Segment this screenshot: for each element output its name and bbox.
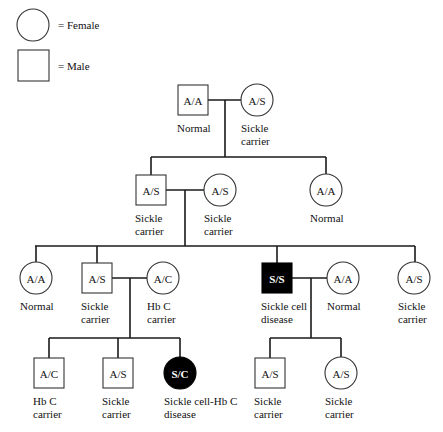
phenotype-label: carrier xyxy=(325,408,354,420)
phenotype-label: Normal xyxy=(327,300,361,312)
genotype-label: S/S xyxy=(269,273,284,285)
phenotype-label: Sickle xyxy=(398,300,426,312)
female-legend-icon xyxy=(17,9,49,41)
individual-III-6: A/SSicklecarrier xyxy=(398,262,430,325)
female-legend-label: = Female xyxy=(58,19,99,31)
phenotype-label: disease xyxy=(261,313,293,325)
phenotype-label: carrier xyxy=(204,225,233,237)
genotype-label: A/A xyxy=(334,273,353,285)
phenotype-label: carrier xyxy=(398,313,427,325)
genotype-label: A/S xyxy=(109,368,126,380)
phenotype-label: Sickle xyxy=(241,122,269,134)
individual-III-3: A/CHb Ccarrier xyxy=(147,262,179,325)
individual-I-2: A/SSicklecarrier xyxy=(241,84,273,147)
individual-IV-4: A/SSicklecarrier xyxy=(254,358,285,420)
legend: = Female = Male xyxy=(17,9,99,81)
genotype-label: A/S xyxy=(211,185,228,197)
individual-I-1: A/ANormal xyxy=(177,85,211,134)
phenotype-label: Sickle xyxy=(254,395,282,407)
genotype-label: A/S xyxy=(88,273,105,285)
phenotype-label: carrier xyxy=(147,313,176,325)
genotype-label: A/A xyxy=(184,95,203,107)
individual-III-4: S/SSickle celldisease xyxy=(261,263,307,325)
genotype-label: A/S xyxy=(142,185,159,197)
phenotype-label: Normal xyxy=(20,300,54,312)
genotype-label: A/S xyxy=(405,273,422,285)
individual-IV-3: S/CSickle cell-Hb Cdisease xyxy=(164,357,237,420)
genotype-label: A/S xyxy=(261,368,278,380)
male-legend-icon xyxy=(18,50,49,81)
genotype-label: A/A xyxy=(27,273,46,285)
pedigree-diagram: = Female = Male A/ANormalA/SSicklecarrie… xyxy=(0,0,443,432)
genotype-label: A/S xyxy=(332,368,349,380)
individual-IV-2: A/SSicklecarrier xyxy=(102,358,133,420)
genotype-label: A/S xyxy=(248,95,265,107)
genotype-label: S/C xyxy=(171,368,188,380)
phenotype-label: Sickle xyxy=(325,395,353,407)
individual-III-5: A/ANormal xyxy=(327,262,361,312)
phenotype-label: Hb C xyxy=(147,300,171,312)
male-legend-label: = Male xyxy=(58,60,90,72)
individual-IV-1: A/CHb Ccarrier xyxy=(33,358,64,420)
phenotype-label: Sickle cell xyxy=(261,300,307,312)
phenotype-label: Normal xyxy=(177,122,211,134)
individual-II-3: A/ANormal xyxy=(310,174,344,224)
genotype-label: A/C xyxy=(154,273,172,285)
phenotype-label: carrier xyxy=(33,408,62,420)
phenotype-label: Sickle xyxy=(81,300,109,312)
individual-II-1: A/SSicklecarrier xyxy=(135,175,166,237)
phenotype-label: carrier xyxy=(135,225,164,237)
individual-II-2: A/SSicklecarrier xyxy=(204,174,236,237)
pedigree-chart: = Female = Male A/ANormalA/SSicklecarrie… xyxy=(0,0,443,432)
phenotype-label: Sickle xyxy=(204,212,232,224)
phenotype-label: carrier xyxy=(254,408,283,420)
phenotype-label: Normal xyxy=(310,212,344,224)
genotype-label: A/A xyxy=(317,185,336,197)
individual-III-2: A/SSicklecarrier xyxy=(81,263,112,325)
genotype-label: A/C xyxy=(40,368,58,380)
individual-IV-5: A/SSicklecarrier xyxy=(325,357,357,420)
phenotype-label: carrier xyxy=(241,135,270,147)
phenotype-label: Hb C xyxy=(33,395,57,407)
phenotype-label: Sickle xyxy=(135,212,163,224)
phenotype-label: Sickle xyxy=(102,395,130,407)
phenotype-label: disease xyxy=(164,408,196,420)
phenotype-label: carrier xyxy=(81,313,110,325)
phenotype-label: carrier xyxy=(102,408,131,420)
phenotype-label: Sickle cell-Hb C xyxy=(164,395,237,407)
individual-III-1: A/ANormal xyxy=(20,262,54,312)
